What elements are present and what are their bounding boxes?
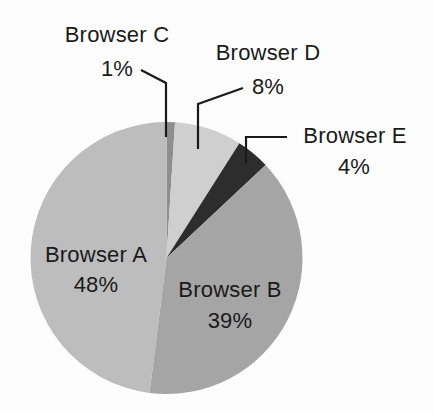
label-browser-d-name: Browser D <box>216 40 321 65</box>
label-browser-d-pct: 8% <box>252 74 284 99</box>
label-browser-b-pct: 39% <box>208 308 253 333</box>
label-browser-c-name: Browser C <box>65 22 170 47</box>
pie-chart: Browser C 1% Browser D 8% Browser E 4% B… <box>0 0 434 413</box>
label-browser-c-pct: 1% <box>101 56 133 81</box>
label-browser-e-pct: 4% <box>338 154 370 179</box>
label-browser-a-pct: 48% <box>74 272 119 297</box>
label-browser-e-name: Browser E <box>303 123 406 148</box>
label-browser-b-name: Browser B <box>178 277 281 302</box>
label-browser-a-name: Browser A <box>45 242 147 267</box>
